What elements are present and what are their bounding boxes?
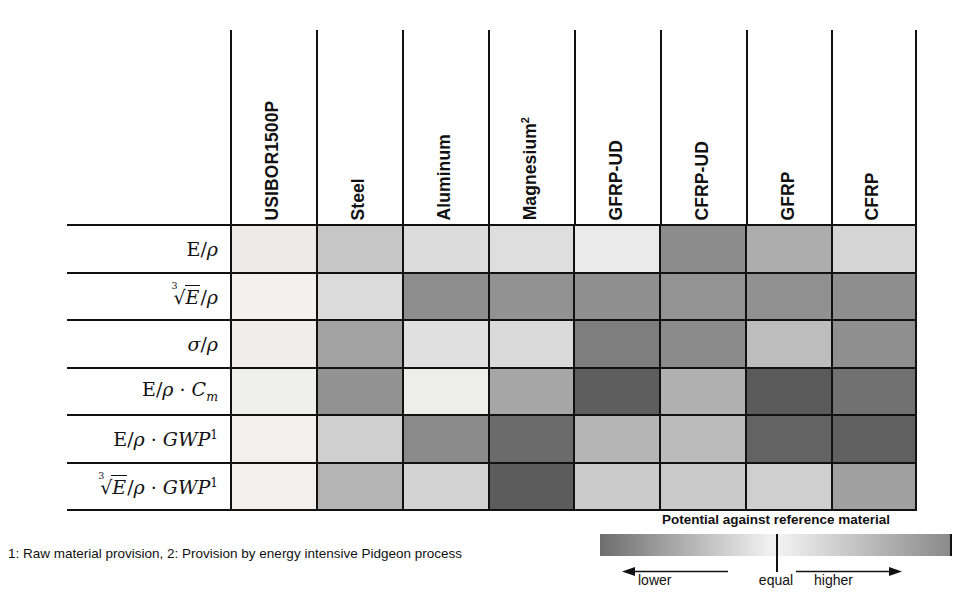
row-label-e-rho-cm: E/ρ · Cm: [67, 369, 230, 415]
heatmap-cell: [831, 369, 917, 415]
column-header-steel: Steel: [316, 30, 402, 224]
heatmap-cell: [488, 274, 574, 320]
column-header-cfrp-ud: CFRP-UD: [660, 30, 746, 224]
heatmap-cell: [230, 369, 316, 415]
heatmap-cell: [659, 321, 745, 367]
heatmap-cell: [230, 464, 316, 510]
heatmap-cell: [659, 416, 745, 462]
heatmap-cell: [316, 416, 402, 462]
column-header-label: GFRP-UD: [608, 140, 626, 220]
heatmap-cell: [402, 369, 488, 415]
column-header-usibor1500p: USIBOR1500P: [230, 30, 316, 224]
heatmap-cell: [745, 464, 831, 510]
column-header-cfrp: CFRP: [831, 30, 917, 224]
table-row: 3√E/ρ: [67, 274, 917, 322]
column-header-label: Magnesium2: [520, 117, 539, 220]
column-header-magnesium: Magnesium2: [488, 30, 574, 224]
column-header-label: Aluminum: [436, 134, 454, 220]
legend-labels: lower equal higher: [600, 570, 952, 592]
legend-label-higher: higher: [814, 572, 853, 588]
material-potential-figure: USIBOR1500P Steel Aluminum Magnesium2 GF…: [0, 0, 955, 616]
column-header-aluminum: Aluminum: [402, 30, 488, 224]
table-row: 3√E/ρ · GWP1: [67, 464, 917, 512]
heatmap-cell: [316, 274, 402, 320]
heatmap-cell: [831, 321, 917, 367]
heatmap-cell: [659, 369, 745, 415]
column-header-label: GFRP: [780, 171, 798, 220]
heatmap-cell: [573, 369, 659, 415]
heatmap-cell: [488, 321, 574, 367]
heatmap-cell: [402, 226, 488, 272]
row-label-sigma-rho: σ/ρ: [67, 321, 230, 367]
heatmap-cell: [745, 321, 831, 367]
column-header-gfrp-ud: GFRP-UD: [574, 30, 660, 224]
row-label-e-rho: E/ρ: [67, 226, 230, 272]
column-header-gfrp: GFRP: [746, 30, 832, 224]
column-header-label: USIBOR1500P: [264, 100, 282, 220]
footnote-text: 1: Raw material provision, 2: Provision …: [8, 546, 462, 561]
heatmap-cell: [745, 274, 831, 320]
heatmap-cell: [488, 369, 574, 415]
heatmap-cell: [402, 464, 488, 510]
column-header-label: Steel: [350, 178, 368, 220]
table-row: E/ρ · Cm: [67, 369, 917, 417]
heatmap-cell: [488, 226, 574, 272]
heatmap-cell: [316, 369, 402, 415]
legend-label-equal: equal: [759, 572, 793, 588]
heatmap-cell: [573, 464, 659, 510]
row-label-cbrt-e-rho: 3√E/ρ: [67, 274, 230, 320]
table-row: σ/ρ: [67, 321, 917, 369]
heatmap-cell: [831, 274, 917, 320]
heatmap-cell: [659, 226, 745, 272]
heatmap-cell: [573, 274, 659, 320]
heatmap-cell: [316, 464, 402, 510]
heatmap-cell: [488, 464, 574, 510]
legend-center-tick: [776, 534, 778, 572]
column-header-label: CFRP: [864, 172, 882, 220]
heatmap-cell: [488, 416, 574, 462]
heatmap-cell: [573, 226, 659, 272]
heatmap-cell: [316, 226, 402, 272]
heatmap-cell: [831, 226, 917, 272]
legend: Potential against reference material low…: [600, 512, 952, 612]
column-header-band: USIBOR1500P Steel Aluminum Magnesium2 GF…: [230, 30, 917, 224]
heatmap-cell: [831, 464, 917, 510]
heatmap-cell: [230, 321, 316, 367]
heatmap-cell: [745, 226, 831, 272]
heatmap-cell: [402, 274, 488, 320]
heatmap-cell: [573, 321, 659, 367]
heatmap-cell: [402, 321, 488, 367]
heatmap-cell: [831, 416, 917, 462]
heatmap-cell: [230, 226, 316, 272]
heatmap-matrix: E/ρ 3√E/ρ σ/ρ: [67, 224, 917, 511]
table-row: E/ρ: [67, 226, 917, 274]
heatmap-cell: [230, 416, 316, 462]
heatmap-cell: [659, 274, 745, 320]
heatmap-cell: [745, 369, 831, 415]
legend-label-lower: lower: [638, 572, 671, 588]
row-label-e-rho-gwp: E/ρ · GWP1: [67, 416, 230, 462]
heatmap-cell: [230, 274, 316, 320]
heatmap-cell: [402, 416, 488, 462]
heatmap-cell: [316, 321, 402, 367]
row-label-cbrt-e-rho-gwp: 3√E/ρ · GWP1: [67, 464, 230, 510]
heatmap-cell: [659, 464, 745, 510]
heatmap-cell: [573, 416, 659, 462]
column-header-label: CFRP-UD: [694, 141, 712, 220]
heatmap-cell: [745, 416, 831, 462]
footnote-marker-2: 2: [519, 117, 531, 123]
table-row: E/ρ · GWP1: [67, 416, 917, 464]
legend-title: Potential against reference material: [600, 512, 952, 527]
